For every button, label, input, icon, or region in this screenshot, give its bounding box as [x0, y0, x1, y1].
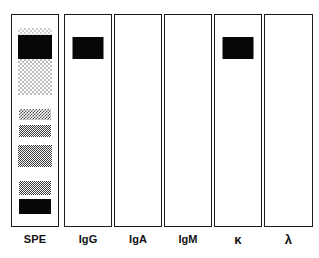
band-spe-alpha2 — [19, 125, 51, 137]
lane-group: SPEIgGIgAIgMκλ — [0, 0, 319, 258]
lane-kappa[interactable] — [214, 14, 262, 227]
lane-igg-label: IgG — [64, 233, 112, 246]
band-spe-cap-stipple — [18, 28, 52, 35]
lane-igg[interactable] — [64, 14, 112, 227]
band-spe-gamma-solid — [19, 199, 51, 214]
band-spe-albumin-smear — [18, 59, 52, 95]
band-spe-alpha1 — [19, 109, 51, 120]
band-spe-gamma-faint — [19, 181, 51, 195]
band-spe-m-spike — [18, 35, 52, 59]
lane-lambda-label: λ — [264, 233, 313, 246]
lane-kappa-label: κ — [214, 233, 262, 246]
lane-igm-label: IgM — [164, 233, 212, 246]
lane-iga[interactable] — [114, 14, 162, 227]
band-spe-beta — [18, 145, 52, 167]
immunofixation-gel-figure: SPEIgGIgAIgMκλ — [0, 0, 319, 258]
band-igg-m-spike — [73, 37, 104, 59]
lane-lambda[interactable] — [264, 14, 313, 227]
lane-spe[interactable] — [11, 14, 59, 227]
band-kappa-m-spike — [223, 37, 254, 59]
lane-igm[interactable] — [164, 14, 212, 227]
lane-spe-label: SPE — [11, 233, 59, 246]
lane-iga-label: IgA — [114, 233, 162, 246]
